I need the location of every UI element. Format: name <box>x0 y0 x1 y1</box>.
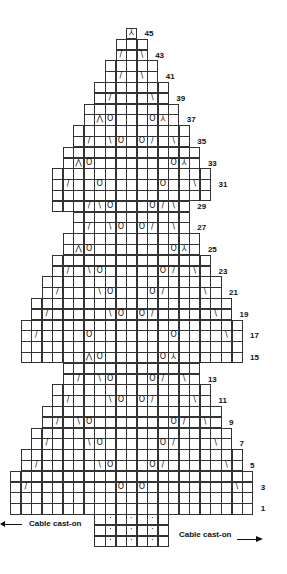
grid-cell <box>10 482 21 493</box>
grid-cell <box>221 298 232 309</box>
row-number-label: 25 <box>208 245 217 254</box>
grid-cell <box>21 449 32 460</box>
grid-cell <box>21 320 32 331</box>
grid-cell <box>10 503 21 514</box>
grid-cell <box>116 104 127 115</box>
grid-cell <box>168 341 179 352</box>
grid-cell <box>126 384 137 395</box>
grid-cell <box>210 503 221 514</box>
grid-cell <box>105 60 116 71</box>
grid-cell <box>147 417 158 428</box>
row-number-label: 17 <box>250 331 259 340</box>
grid-cell <box>21 352 32 363</box>
row-number-label: 37 <box>187 115 196 124</box>
grid-cell <box>73 287 84 298</box>
dot-icon: · <box>126 536 137 547</box>
grid-cell <box>94 136 105 147</box>
grid-cell <box>31 298 42 309</box>
grid-cell <box>200 266 211 277</box>
cast-on-left-label: Cable cast-on <box>29 519 81 528</box>
grid-cell <box>42 471 53 482</box>
grid-cell <box>168 104 179 115</box>
grid-cell <box>210 287 221 298</box>
grid-cell <box>63 352 74 363</box>
grid-cell <box>189 147 200 158</box>
grid-cell <box>126 471 137 482</box>
grid-cell <box>116 374 127 385</box>
k3tog-icon: ⋀ <box>94 114 105 125</box>
grid-cell <box>189 330 200 341</box>
grid-cell <box>63 276 74 287</box>
grid-cell <box>52 168 63 179</box>
grid-cell <box>73 276 84 287</box>
yo-icon: O <box>84 417 95 428</box>
grid-cell <box>94 255 105 266</box>
grid-cell <box>94 104 105 115</box>
ssk-icon: \ <box>168 201 179 212</box>
dot-icon: · <box>147 536 158 547</box>
grid-cell <box>179 287 190 298</box>
knitting-chart: ⅄45/\43/\41/\39⋀OO⅄37/\OO/\35⋀OO⅄33/OO\3… <box>0 0 287 574</box>
grid-cell <box>84 104 95 115</box>
yo-icon: O <box>116 136 127 147</box>
grid-cell <box>137 190 148 201</box>
dot-icon: · <box>105 525 116 536</box>
grid-cell <box>158 158 169 169</box>
yo-icon: O <box>137 395 148 406</box>
grid-cell <box>168 179 179 190</box>
grid-cell <box>105 449 116 460</box>
grid-cell <box>73 309 84 320</box>
grid-cell <box>84 482 95 493</box>
cast-on-cell <box>158 514 169 525</box>
grid-cell <box>147 482 158 493</box>
grid-cell <box>147 298 158 309</box>
grid-cell <box>52 309 63 320</box>
grid-cell <box>126 60 137 71</box>
grid-cell <box>242 482 253 493</box>
grid-cell <box>94 449 105 460</box>
grid-cell <box>126 222 137 233</box>
grid-cell <box>63 384 74 395</box>
grid-cell <box>84 309 95 320</box>
grid-cell <box>105 147 116 158</box>
grid-cell <box>94 158 105 169</box>
sk2p-icon: ⅄ <box>179 244 190 255</box>
grid-cell <box>63 503 74 514</box>
grid-cell <box>94 330 105 341</box>
grid-cell <box>221 309 232 320</box>
grid-cell <box>84 255 95 266</box>
grid-cell <box>116 276 127 287</box>
grid-cell <box>137 147 148 158</box>
grid-cell <box>31 449 42 460</box>
grid-cell <box>31 428 42 439</box>
grid-cell <box>105 125 116 136</box>
cast-on-cell <box>116 536 127 547</box>
cast-on-cell <box>94 525 105 536</box>
row-number-label: 21 <box>229 288 238 297</box>
grid-cell <box>137 114 148 125</box>
grid-cell <box>200 503 211 514</box>
grid-cell <box>221 428 232 439</box>
grid-cell <box>200 190 211 201</box>
grid-cell <box>179 320 190 331</box>
grid-cell <box>179 136 190 147</box>
grid-cell <box>147 330 158 341</box>
grid-cell <box>126 39 137 50</box>
grid-cell <box>63 330 74 341</box>
grid-cell <box>116 266 127 277</box>
grid-cell <box>200 330 211 341</box>
grid-cell <box>147 352 158 363</box>
grid-cell <box>137 384 148 395</box>
grid-cell <box>147 104 158 115</box>
grid-cell <box>126 50 137 61</box>
grid-cell <box>73 190 84 201</box>
yo-icon: O <box>168 417 179 428</box>
grid-cell <box>116 492 127 503</box>
grid-cell <box>94 244 105 255</box>
grid-cell <box>179 255 190 266</box>
grid-cell <box>42 341 53 352</box>
grid-cell <box>84 395 95 406</box>
grid-cell <box>210 298 221 309</box>
grid-cell <box>137 104 148 115</box>
grid-cell <box>158 190 169 201</box>
